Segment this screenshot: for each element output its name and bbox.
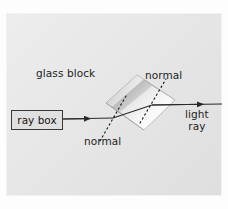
refraction-diagram — [0, 0, 228, 209]
label-normal-top: normal — [145, 70, 182, 82]
label-glass-block: glass block — [36, 68, 95, 80]
incident-ray — [63, 118, 113, 119]
ray-box-label: ray box — [12, 114, 62, 126]
label-light-ray: light ray — [185, 108, 209, 132]
label-light-ray-line1: light — [185, 108, 209, 120]
ray-box: ray box — [11, 110, 63, 130]
label-normal-bottom: normal — [84, 136, 121, 148]
figure-canvas: ray box glass block normal normal light … — [0, 0, 228, 209]
label-light-ray-line2: ray — [185, 120, 209, 132]
